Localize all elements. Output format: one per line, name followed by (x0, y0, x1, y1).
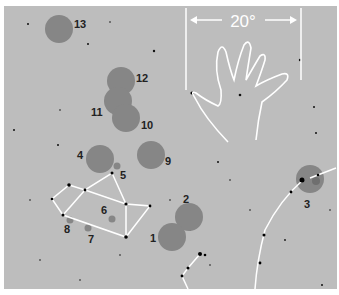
scale-label: 20° (230, 12, 256, 31)
label-10: 10 (141, 119, 153, 131)
label-1: 1 (150, 232, 156, 244)
region-9 (137, 141, 165, 169)
label-9: 9 (165, 155, 171, 167)
hand-outline-icon (193, 42, 288, 142)
label-6: 6 (101, 204, 107, 216)
label-5: 5 (120, 169, 126, 181)
region-7 (85, 225, 92, 232)
label-13: 13 (74, 18, 86, 30)
label-7: 7 (88, 233, 94, 245)
object-regions (45, 15, 324, 251)
star-chart: 20° 13 12 11 10 4 5 9 6 8 7 2 1 3 (0, 0, 339, 295)
constellation-stars (51, 91, 320, 277)
chart-svg: 20° 13 12 11 10 4 5 9 6 8 7 2 1 3 (0, 0, 339, 295)
label-2: 2 (183, 193, 189, 205)
region-1 (158, 223, 186, 251)
region-13 (45, 15, 73, 43)
label-4: 4 (77, 149, 84, 161)
label-12: 12 (136, 72, 148, 84)
label-3: 3 (304, 198, 310, 210)
region-10 (112, 104, 140, 132)
label-11: 11 (91, 106, 103, 118)
region-4 (86, 145, 114, 173)
region-6 (109, 216, 116, 223)
label-8: 8 (64, 223, 70, 235)
